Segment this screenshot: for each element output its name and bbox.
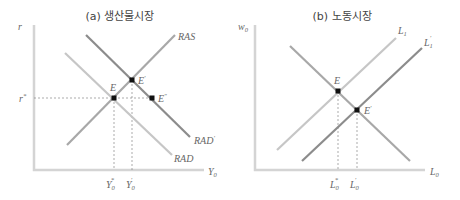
label-rad: RAD bbox=[173, 153, 194, 164]
panel-b-title: (b) 노동시장 bbox=[312, 10, 371, 23]
diagram-canvas: (a) 생산물시장 r Y0 RAS RAD RAD′ E E′ E″ r* Y… bbox=[0, 0, 460, 200]
tick-l0-prime: L0′ bbox=[349, 176, 360, 191]
tick-r-star: r* bbox=[19, 92, 27, 104]
x-axis-label-l0: L0 bbox=[429, 166, 440, 178]
tick-y0-star: Y0* bbox=[106, 176, 116, 191]
panel-a-title: (a) 생산물시장 bbox=[86, 10, 155, 23]
label-e-double-prime: E″ bbox=[157, 92, 167, 104]
y-axis-label-w0: w0 bbox=[238, 21, 249, 33]
y-axis-label-r: r bbox=[18, 21, 22, 32]
panel-product-market: (a) 생산물시장 r Y0 RAS RAD RAD′ E E′ E″ r* Y… bbox=[18, 10, 218, 191]
curve-l1-prime bbox=[302, 48, 422, 161]
label-rad-prime: RAD′ bbox=[193, 134, 215, 146]
curve-ras bbox=[67, 35, 175, 145]
label-e: E bbox=[333, 75, 340, 86]
label-ras: RAS bbox=[177, 31, 195, 42]
label-l1-prime: L1′ bbox=[423, 34, 433, 49]
point-e-double-prime bbox=[150, 96, 155, 101]
point-e-prime bbox=[130, 78, 135, 83]
x-axis-label-y0: Y0 bbox=[208, 166, 218, 178]
label-e: E bbox=[109, 82, 116, 93]
curve-l1 bbox=[277, 38, 396, 150]
label-l1: L1 bbox=[397, 25, 407, 37]
panel-a-axes bbox=[34, 25, 204, 170]
panel-b-axes bbox=[255, 25, 425, 170]
label-e-prime: E′ bbox=[363, 104, 372, 116]
panel-labor-market: (b) 노동시장 w0 L0 L1 L1′ E E′ L0* L0′ bbox=[238, 10, 440, 191]
point-e bbox=[112, 96, 117, 101]
point-e-prime bbox=[355, 108, 360, 113]
label-e-prime: E′ bbox=[137, 74, 146, 86]
tick-y0-prime: Y0′ bbox=[126, 176, 136, 191]
point-e bbox=[336, 89, 341, 94]
tick-l0-star: L0* bbox=[329, 176, 340, 191]
curve-labor-demand bbox=[290, 46, 410, 161]
